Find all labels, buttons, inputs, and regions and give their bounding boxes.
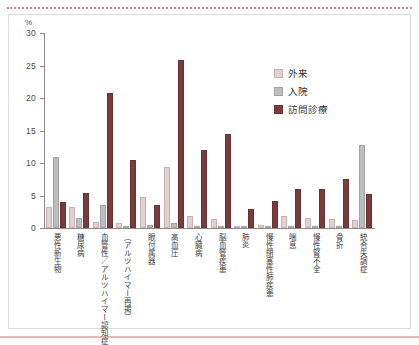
y-tick-label-5: 5 [14,191,36,201]
bar[interactable] [265,226,271,228]
x-axis-label: 骨折 [334,233,343,249]
x-axis-label: 脳血管疾患 [217,233,226,273]
y-tick-label-15: 15 [14,126,36,136]
bar[interactable] [107,93,113,228]
x-axis-label: 慢性閉塞性肺疾患 [264,233,273,297]
x-axis-label: 慢性腎不全 [311,233,320,273]
bar-group [91,33,115,228]
y-tick-0 [40,228,44,229]
bar-group [256,33,280,228]
bar-group [185,33,209,228]
x-axis-label: 眼付属器 [146,233,155,265]
bar-group [280,33,304,228]
legend-item-homon[interactable]: 訪問診療 [274,102,328,116]
bar[interactable] [60,202,66,228]
bar[interactable] [83,193,89,228]
bar[interactable] [281,216,287,228]
bar-group [233,33,257,228]
x-axis-line [44,228,375,229]
bar-group [115,33,139,228]
chart-legend: 外来 入院 訪問診療 [274,66,328,116]
bar[interactable] [140,197,146,228]
bar[interactable] [130,160,136,228]
bar[interactable] [234,226,240,228]
bar-group [327,33,351,228]
y-tick-label-10: 10 [14,158,36,168]
bar[interactable] [288,226,294,228]
bar[interactable] [164,167,170,228]
bar-group [350,33,374,228]
bar[interactable] [93,222,99,228]
x-axis-label: 高血圧 [169,233,178,257]
x-axis-label: 血管性／アルツハイマー認知症 [99,233,108,345]
y-tick-label-20: 20 [14,93,36,103]
bar[interactable] [178,60,184,228]
bar-group [162,33,186,228]
bar-group [44,33,68,228]
bar[interactable] [100,205,106,228]
bar-group [138,33,162,228]
bar[interactable] [241,226,247,228]
bar[interactable] [305,218,311,228]
legend-swatch-homon [274,105,283,114]
bar[interactable] [187,216,193,228]
bar[interactable] [46,207,52,228]
x-axis-label: 心臓病 [193,233,202,257]
bar[interactable] [116,223,122,228]
legend-label-gairai: 外来 [288,66,308,80]
bottom-rule [0,336,419,338]
x-axis-label: 肺炎 [240,233,249,249]
bar[interactable] [69,207,75,228]
bar[interactable] [295,189,301,228]
legend-item-gairai[interactable]: 外来 [274,66,328,80]
bar[interactable] [53,157,59,229]
bar[interactable] [171,223,177,228]
legend-label-nyuin: 入院 [288,84,308,98]
bar[interactable] [312,226,318,228]
x-axis-label: 喘息 [287,233,296,249]
x-axis-label: 統合失調症 [358,233,367,273]
legend-item-nyuin[interactable]: 入院 [274,84,328,98]
x-axis-label: （アルツハイマー再掲） [122,233,131,321]
y-tick-label-25: 25 [14,61,36,71]
x-axis-label: 悪性新生物 [52,233,61,273]
bar-group [68,33,92,228]
legend-swatch-gairai [274,69,283,78]
bar[interactable] [218,226,224,228]
bar[interactable] [76,218,82,228]
bar[interactable] [343,179,349,228]
y-tick-label-0: 0 [14,223,36,233]
top-dotted-rule [7,7,412,11]
bar[interactable] [336,226,342,228]
bar[interactable] [366,194,372,228]
bar[interactable] [194,226,200,228]
x-axis-label: 糖尿病 [75,233,84,257]
bar[interactable] [147,225,153,228]
bar[interactable] [319,189,325,228]
bar[interactable] [211,219,217,228]
bar[interactable] [154,205,160,228]
bar-group [303,33,327,228]
bar[interactable] [123,226,129,228]
y-axis-unit-label: % [25,18,32,27]
plot-area [44,33,374,228]
bar[interactable] [272,201,278,228]
bar[interactable] [352,220,358,228]
bar[interactable] [329,219,335,228]
legend-swatch-nyuin [274,87,283,96]
bar[interactable] [258,225,264,228]
bar[interactable] [201,150,207,228]
bar-group [209,33,233,228]
y-tick-label-30: 30 [14,28,36,38]
bar[interactable] [248,209,254,229]
bar[interactable] [225,134,231,228]
bar[interactable] [359,145,365,228]
legend-label-homon: 訪問診療 [288,102,328,116]
